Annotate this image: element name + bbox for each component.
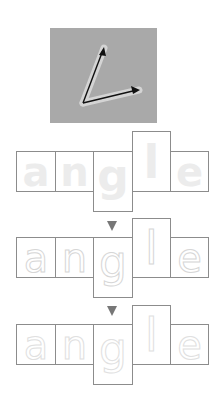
letter-e: e: [177, 325, 202, 365]
letter-e: e: [177, 238, 202, 278]
down-triangle-icon: [107, 221, 117, 231]
letter-box-l: l: [132, 131, 171, 192]
letter-l: l: [145, 225, 158, 271]
letter-box-l: l: [132, 218, 171, 278]
letter-n: n: [60, 152, 88, 192]
letter-box-a: a: [16, 324, 56, 365]
letter-box-g: g: [93, 151, 133, 212]
letter-l: l: [144, 139, 160, 185]
letter-box-g: g: [93, 324, 133, 385]
letter-box-a: a: [16, 237, 56, 278]
letter-a: a: [24, 238, 49, 278]
letter-box-n: n: [55, 237, 94, 278]
letter-box-e: e: [170, 237, 209, 278]
letter-l: l: [145, 312, 158, 358]
letter-box-a: a: [16, 151, 56, 192]
letter-box-n: n: [55, 324, 94, 365]
letter-box-g: g: [93, 237, 133, 298]
letter-g: g: [99, 327, 127, 371]
letter-g: g: [99, 240, 127, 284]
angle-arrows-icon: [50, 28, 157, 123]
letter-box-e: e: [170, 324, 209, 365]
letter-box-l: l: [132, 305, 171, 365]
letter-n: n: [62, 325, 87, 365]
letter-n: n: [62, 238, 87, 278]
letter-a: a: [23, 152, 50, 192]
letter-g: g: [97, 154, 129, 198]
letter-box-e: e: [170, 151, 209, 192]
angle-photo: [50, 28, 157, 123]
letter-e: e: [176, 152, 203, 192]
letter-box-n: n: [55, 151, 94, 192]
letter-a: a: [24, 325, 49, 365]
down-triangle-icon: [107, 306, 117, 316]
